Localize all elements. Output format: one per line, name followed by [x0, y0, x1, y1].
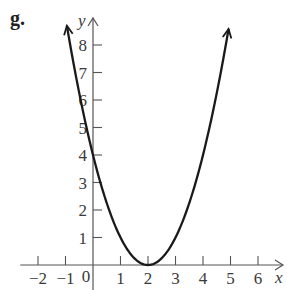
x-tick-label: 4: [199, 269, 208, 288]
x-tick-label: 3: [171, 269, 180, 288]
x-axis-label: x: [274, 268, 283, 287]
panel-label: g.: [10, 7, 25, 30]
parabola-line: [67, 26, 229, 265]
y-tick-label: 7: [79, 64, 88, 83]
y-axis-label: y: [76, 11, 86, 30]
ticks: −2−1123456012345678: [29, 36, 262, 288]
x-tick-label: −2: [29, 269, 47, 288]
parabola-chart: g. xy −2−1123456012345678: [0, 0, 287, 290]
y-tick-label: 2: [79, 201, 88, 220]
curve-group: [64, 26, 231, 265]
x-tick-label: 6: [254, 269, 263, 288]
y-tick-label: 8: [79, 36, 88, 55]
x-tick-label: 1: [116, 269, 125, 288]
x-tick-label: 5: [226, 269, 235, 288]
axes: xy: [20, 11, 283, 290]
x-tick-label: 2: [144, 269, 153, 288]
origin-label: 0: [82, 267, 91, 286]
y-tick-label: 4: [79, 146, 88, 165]
y-tick-label: 3: [79, 174, 88, 193]
y-tick-label: 1: [79, 229, 88, 248]
x-tick-label: −1: [56, 269, 74, 288]
